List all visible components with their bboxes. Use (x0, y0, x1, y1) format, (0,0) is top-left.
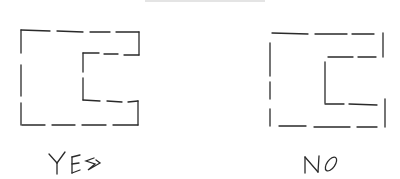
yes-shape (21, 30, 139, 125)
no-shape (270, 33, 385, 127)
